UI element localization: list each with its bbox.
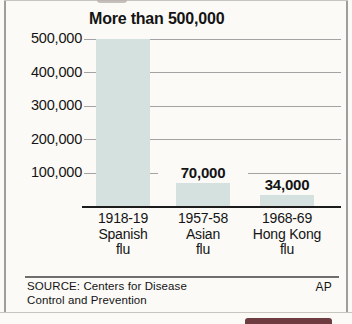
bar-spanish-flu: [96, 39, 150, 208]
x-axis-baseline: [82, 206, 341, 208]
photo-border-right: [346, 0, 348, 313]
category-label-line: 1968-69: [232, 211, 342, 227]
source-line-2: Control and Prevention: [27, 294, 187, 308]
y-tick-label-200000: 200,000: [10, 131, 82, 148]
y-tick-label-100000: 100,000: [10, 164, 82, 181]
chart-title: More than 500,000: [89, 10, 224, 28]
y-tick-label-400000: 400,000: [10, 64, 82, 81]
photo-border-top: [4, 0, 348, 1]
cropped-artifact-bottom-right: [245, 318, 332, 324]
photo-border-left: [4, 0, 6, 313]
bar-asian-flu: [176, 183, 230, 208]
cropped-artifact-top: [97, 0, 127, 3]
y-tick-label-500000: 500,000: [10, 30, 82, 47]
ap-credit: AP: [252, 280, 332, 294]
y-tick-label-300000: 300,000: [10, 97, 82, 114]
source-attribution: SOURCE: Centers for Disease Control and …: [27, 280, 187, 307]
category-label-line: Hong Kong: [232, 227, 342, 243]
source-line-1: SOURCE: Centers for Disease: [27, 280, 187, 294]
category-label-hong-kong-flu: 1968-69Hong Kongflu: [232, 211, 342, 258]
category-label-line: flu: [232, 242, 342, 258]
bar-value-label-asian-flu: 70,000: [158, 163, 248, 182]
footer-divider: [25, 276, 339, 278]
bar-value-label-hong-kong-flu: 34,000: [242, 175, 332, 194]
photo-border-bottom: [0, 312, 352, 313]
